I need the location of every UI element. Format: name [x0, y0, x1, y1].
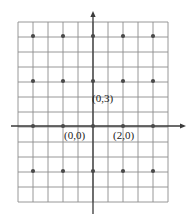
lattice-point [31, 34, 35, 38]
lattice-point [61, 169, 65, 173]
lattice-point [121, 34, 125, 38]
lattice-point [61, 34, 65, 38]
label-e1: (2,0) [113, 129, 134, 142]
diagram-background [0, 0, 194, 217]
lattice-point [91, 124, 95, 128]
lattice-point [91, 169, 95, 173]
lattice-point [61, 79, 65, 83]
lattice-point [91, 79, 95, 83]
lattice-point [91, 34, 95, 38]
lattice-point [151, 169, 155, 173]
label-e2: (0,3) [92, 92, 113, 105]
label-origin: (0,0) [64, 129, 85, 142]
lattice-point [121, 124, 125, 128]
lattice-point [121, 169, 125, 173]
lattice-point [31, 169, 35, 173]
lattice-point [31, 124, 35, 128]
lattice-point [151, 34, 155, 38]
lattice-point [31, 79, 35, 83]
lattice-diagram-canvas: (0,0)(2,0)(0,3) [0, 0, 194, 217]
lattice-point [151, 124, 155, 128]
lattice-point [121, 79, 125, 83]
lattice-diagram: (0,0)(2,0)(0,3) [0, 0, 194, 217]
lattice-point [151, 79, 155, 83]
lattice-point [61, 124, 65, 128]
